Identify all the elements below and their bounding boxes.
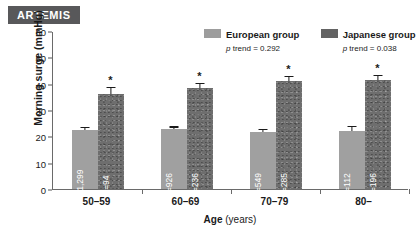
error-bar-cap bbox=[80, 127, 89, 128]
bar-european: n=112 bbox=[339, 131, 365, 189]
bar-group: n=1,299n=94* bbox=[53, 32, 142, 189]
x-axis-label-unit: (years) bbox=[225, 214, 256, 225]
error-bar bbox=[262, 130, 263, 132]
y-tick-label: 30 bbox=[35, 106, 46, 117]
x-axis-label: Age (years) bbox=[52, 214, 408, 225]
bar-n-label: n=285 bbox=[280, 173, 289, 197]
error-bar bbox=[84, 128, 85, 129]
bar-n-label: n=549 bbox=[254, 173, 263, 197]
bar-european: n=549 bbox=[250, 132, 276, 189]
japanese-bar-wrapper: n=236* bbox=[187, 32, 213, 189]
bar-n-label: n=196 bbox=[369, 173, 378, 197]
japanese-bar-wrapper: n=285* bbox=[276, 32, 302, 189]
error-bar bbox=[351, 127, 352, 131]
y-tick-label: 40 bbox=[35, 79, 46, 90]
y-tick-label: 0 bbox=[41, 185, 46, 196]
plot-inner: n=1,299n=94*n=926n=236*n=549n=285*n=112n… bbox=[53, 32, 408, 189]
significance-marker: * bbox=[375, 64, 379, 72]
x-tick-label: 70–79 bbox=[261, 196, 289, 207]
european-bar-wrapper: n=1,299 bbox=[72, 32, 98, 189]
european-bar-wrapper: n=549 bbox=[250, 32, 276, 189]
error-bar-cap bbox=[258, 129, 267, 130]
x-axis-label-name: Age bbox=[204, 214, 223, 225]
error-bar-cap bbox=[284, 76, 293, 77]
bar-group: n=549n=285* bbox=[231, 32, 320, 189]
bar-european: n=926 bbox=[161, 129, 187, 189]
x-tick-mark bbox=[320, 189, 321, 194]
bar-n-label: n=236 bbox=[191, 173, 200, 197]
bar-n-label: n=112 bbox=[343, 173, 352, 196]
x-tick-label: 50–59 bbox=[83, 196, 111, 207]
x-tick-mark bbox=[231, 189, 232, 194]
y-tick-label: 50 bbox=[35, 53, 46, 64]
bar-japanese: n=94 bbox=[98, 94, 124, 189]
error-bar bbox=[173, 128, 174, 129]
significance-marker: * bbox=[108, 76, 112, 84]
bar-european: n=1,299 bbox=[72, 130, 98, 189]
european-bar-wrapper: n=112 bbox=[339, 32, 365, 189]
y-tick-label: 20 bbox=[35, 132, 46, 143]
y-tick-label: 10 bbox=[35, 158, 46, 169]
x-tick-mark bbox=[142, 189, 143, 194]
error-bar-cap bbox=[373, 75, 382, 76]
artemis-morning-surge-figure: ARTEMIS European group p trend = 0.292 J… bbox=[0, 0, 419, 238]
bar-japanese: n=236 bbox=[187, 88, 213, 189]
error-bar bbox=[288, 77, 289, 81]
european-bar-wrapper: n=926 bbox=[161, 32, 187, 189]
error-bar bbox=[377, 76, 378, 80]
bar-group: n=112n=196* bbox=[320, 32, 409, 189]
plot-area: n=1,299n=94*n=926n=236*n=549n=285*n=112n… bbox=[52, 32, 408, 190]
error-bar-cap bbox=[347, 126, 356, 127]
bar-n-label: n=94 bbox=[102, 175, 111, 194]
japanese-bar-wrapper: n=196* bbox=[365, 32, 391, 189]
significance-marker: * bbox=[197, 72, 201, 80]
bar-japanese: n=196 bbox=[365, 80, 391, 189]
error-bar bbox=[110, 88, 111, 94]
japanese-bar-wrapper: n=94* bbox=[98, 32, 124, 189]
significance-marker: * bbox=[286, 65, 290, 73]
x-tick-label: 60–69 bbox=[172, 196, 200, 207]
x-axis-tick-labels: 50–5960–6970–7980– bbox=[52, 196, 408, 210]
y-tick-label: 60 bbox=[35, 27, 46, 38]
bar-group: n=926n=236* bbox=[142, 32, 231, 189]
error-bar-cap bbox=[169, 126, 178, 127]
x-tick-label: 80– bbox=[355, 196, 372, 207]
x-tick-mark bbox=[409, 189, 410, 194]
error-bar-cap bbox=[106, 87, 115, 88]
error-bar-cap bbox=[195, 83, 204, 84]
bar-japanese: n=285 bbox=[276, 81, 302, 189]
error-bar bbox=[199, 84, 200, 87]
bar-n-label: n=926 bbox=[165, 173, 174, 197]
n-italic: n bbox=[101, 190, 111, 195]
y-axis-ticks: 0102030405060 bbox=[28, 28, 52, 192]
